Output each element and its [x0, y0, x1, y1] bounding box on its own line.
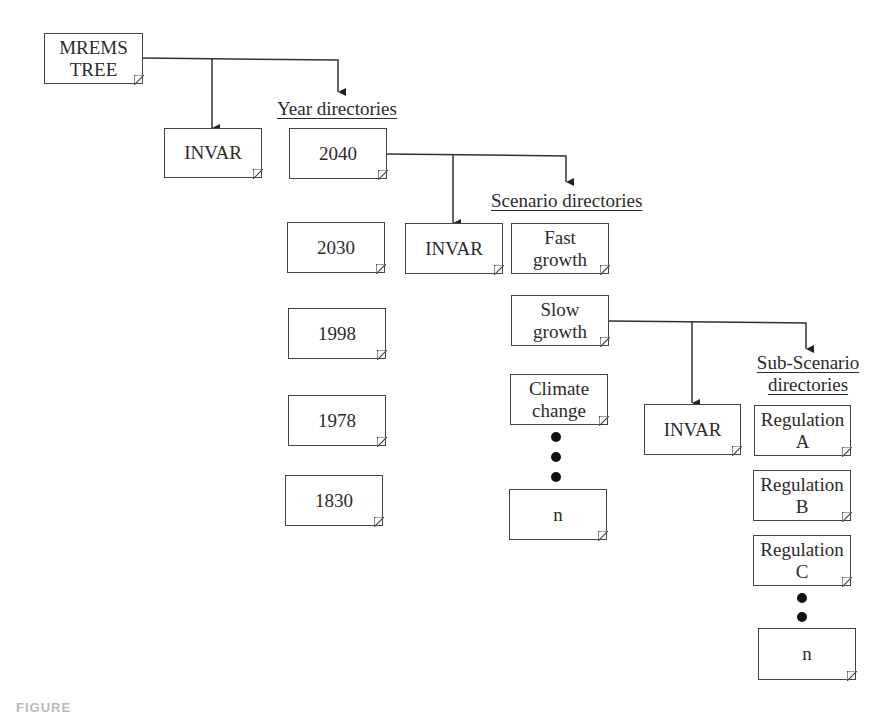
heading-line2: directories: [752, 374, 864, 396]
directory-tree-diagram: MREMS TREE INVAR Year directories 2040 2…: [0, 0, 895, 715]
scenario-node-slow-growth: Slow growth: [511, 295, 609, 346]
scenario-label-line1: Slow: [540, 299, 579, 321]
subscenario-node-regulation-c: Regulation C: [753, 535, 851, 586]
page-fold-icon: [378, 170, 388, 180]
year-node-2040: 2040: [289, 128, 387, 179]
subscenario-label-line1: Regulation: [760, 539, 843, 561]
scenario-label: n: [553, 504, 563, 526]
page-fold-icon: [134, 75, 144, 85]
scenario-label-line2: growth: [533, 249, 587, 271]
year-node-1830: 1830: [285, 475, 383, 526]
page-fold-icon: [600, 265, 610, 275]
page-fold-icon: [494, 265, 504, 275]
scenario-node-n: n: [509, 489, 607, 540]
page-fold-icon: [842, 447, 852, 457]
page-fold-icon: [599, 416, 609, 426]
invar-label: INVAR: [425, 238, 483, 260]
scenario-directories-heading: Scenario directories: [491, 190, 642, 212]
page-fold-icon: [842, 577, 852, 587]
root-label-line2: TREE: [70, 59, 118, 81]
page-fold-icon: [847, 671, 857, 681]
subscenario-label: n: [802, 643, 812, 665]
ellipsis-dot-icon: [551, 472, 561, 482]
scenario-node-climate-change: Climate change: [510, 374, 608, 425]
year-node-2030: 2030: [287, 222, 385, 273]
year-label: 2030: [317, 237, 355, 259]
page-fold-icon: [598, 531, 608, 541]
page-fold-icon: [732, 446, 742, 456]
invar-node-slow-growth: INVAR: [644, 404, 741, 455]
year-label: 1998: [318, 323, 356, 345]
ellipsis-dot-icon: [551, 452, 561, 462]
page-fold-icon: [374, 517, 384, 527]
subscenario-label-line2: B: [796, 496, 809, 518]
scenario-label-line2: change: [532, 400, 586, 422]
scenario-node-fast-growth: Fast growth: [511, 223, 609, 274]
heading-line1: Sub-Scenario: [752, 352, 864, 374]
page-fold-icon: [842, 512, 852, 522]
year-node-1998: 1998: [288, 308, 386, 359]
page-fold-icon: [253, 169, 263, 179]
root-label-line1: MREMS: [59, 37, 128, 59]
subscenario-label-line1: Regulation: [760, 474, 843, 496]
scenario-label-line1: Fast: [544, 227, 576, 249]
invar-node-root: INVAR: [164, 128, 262, 178]
subscenario-node-n: n: [758, 628, 856, 680]
root-node-mrems-tree: MREMS TREE: [44, 33, 143, 84]
subscenario-node-regulation-a: Regulation A: [754, 405, 851, 456]
year-directories-heading: Year directories: [277, 98, 397, 120]
year-node-1978: 1978: [288, 395, 386, 446]
year-label: 1830: [315, 490, 353, 512]
invar-node-2040: INVAR: [405, 223, 503, 274]
invar-label: INVAR: [184, 142, 242, 164]
page-fold-icon: [600, 337, 610, 347]
page-fold-icon: [376, 264, 386, 274]
subscenario-node-regulation-b: Regulation B: [753, 470, 851, 521]
ellipsis-dot-icon: [797, 593, 807, 603]
subscenario-label-line1: Regulation: [761, 409, 844, 431]
subscenario-label-line2: C: [796, 561, 809, 583]
page-fold-icon: [377, 350, 387, 360]
year-label: 2040: [319, 143, 357, 165]
subscenario-label-line2: A: [796, 431, 810, 453]
scenario-label-line2: growth: [533, 321, 587, 343]
ellipsis-dot-icon: [797, 612, 807, 622]
invar-label: INVAR: [664, 419, 722, 441]
figure-caption: FIGURE: [16, 700, 71, 715]
ellipsis-dot-icon: [551, 432, 561, 442]
year-label: 1978: [318, 410, 356, 432]
scenario-label-line1: Climate: [529, 378, 589, 400]
page-fold-icon: [377, 437, 387, 447]
sub-scenario-directories-heading: Sub-Scenario directories: [752, 352, 864, 396]
